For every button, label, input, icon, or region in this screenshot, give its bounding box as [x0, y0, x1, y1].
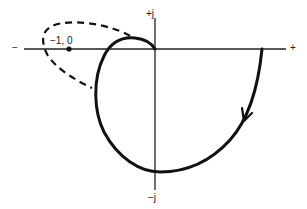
critical-point-marker	[66, 46, 71, 51]
imaginary-axis-negative-label: −j	[148, 193, 156, 203]
real-axis-positive-label: +	[290, 43, 296, 53]
critical-point-label: −1, 0	[50, 36, 73, 46]
imaginary-axis-positive-label: +j	[146, 9, 154, 19]
real-axis-negative-label: −	[12, 43, 18, 53]
nyquist-diagram	[0, 0, 307, 209]
solid-locus-curve	[96, 38, 262, 172]
dashed-locus-curve	[43, 22, 130, 88]
